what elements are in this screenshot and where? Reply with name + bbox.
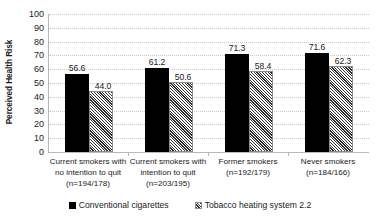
bar[interactable]: 61.2 (145, 68, 169, 152)
legend-item[interactable]: Tobacco heating system 2.2 (195, 200, 312, 211)
bar[interactable]: 71.3 (225, 54, 249, 152)
bar[interactable]: 62.3 (329, 66, 353, 152)
bar-value-label: 61.2 (149, 57, 166, 67)
bar-group: 56.644.0 (49, 14, 129, 152)
bar-group-bars: 61.250.6 (129, 14, 209, 152)
bar-group: 61.250.6 (129, 14, 209, 152)
bar[interactable]: 44.0 (89, 91, 113, 152)
plot-area: 56.644.061.250.671.358.471.662.3 (48, 14, 369, 153)
y-tick-label: 90 (34, 23, 44, 32)
y-tick-label: 60 (34, 65, 44, 74)
bar-value-label: 44.0 (95, 81, 112, 91)
y-axis-tick-labels: 1009080706050403020100 (16, 10, 46, 154)
y-tick-label: 70 (34, 51, 44, 60)
y-tick-label: 0 (39, 148, 44, 157)
bar[interactable]: 58.4 (249, 71, 273, 152)
x-category-label: Current smokers with intention to quit (… (128, 156, 208, 196)
x-axis-category-labels: Current smokers with no intention to qui… (48, 156, 368, 196)
bar-group-bars: 56.644.0 (49, 14, 129, 152)
legend-item-label: Tobacco heating system 2.2 (205, 200, 312, 211)
legend-item[interactable]: Conventional cigarettes (69, 200, 169, 211)
y-tick-label: 50 (34, 79, 44, 88)
x-category-label: Former smokers (n=192/179) (208, 156, 288, 196)
x-category-label: Never smokers (n=184/166) (288, 156, 368, 196)
y-tick-label: 40 (34, 92, 44, 101)
x-category-label: Current smokers with no intention to qui… (48, 156, 128, 196)
bar[interactable]: 71.6 (305, 53, 329, 152)
bar-value-label: 71.3 (229, 43, 246, 53)
legend-swatch-solid-icon (69, 202, 76, 209)
bar-group-bars: 71.358.4 (209, 14, 289, 152)
bar-group: 71.662.3 (289, 14, 369, 152)
y-tick-label: 80 (34, 37, 44, 46)
chart-legend: Conventional cigarettesTobacco heating s… (0, 200, 380, 211)
y-tick-label: 10 (34, 134, 44, 143)
bar-value-label: 62.3 (335, 56, 352, 66)
bar-value-label: 50.6 (175, 72, 192, 82)
y-tick-label: 20 (34, 120, 44, 129)
legend-swatch-hatched-icon (195, 202, 202, 209)
bar[interactable]: 56.6 (65, 74, 89, 152)
bar-value-label: 71.6 (309, 42, 326, 52)
bar-chart: Perceived Health Risk 100908070605040302… (0, 0, 380, 224)
y-axis-title: Perceived Health Risk (2, 6, 16, 158)
bar[interactable]: 50.6 (169, 82, 193, 152)
bar-value-label: 58.4 (255, 61, 272, 71)
bar-groups: 56.644.061.250.671.358.471.662.3 (49, 14, 369, 152)
bar-group: 71.358.4 (209, 14, 289, 152)
legend-item-label: Conventional cigarettes (79, 200, 169, 211)
y-tick-label: 30 (34, 106, 44, 115)
bar-group-bars: 71.662.3 (289, 14, 369, 152)
y-tick-label: 100 (29, 10, 44, 19)
bar-value-label: 56.6 (69, 63, 86, 73)
